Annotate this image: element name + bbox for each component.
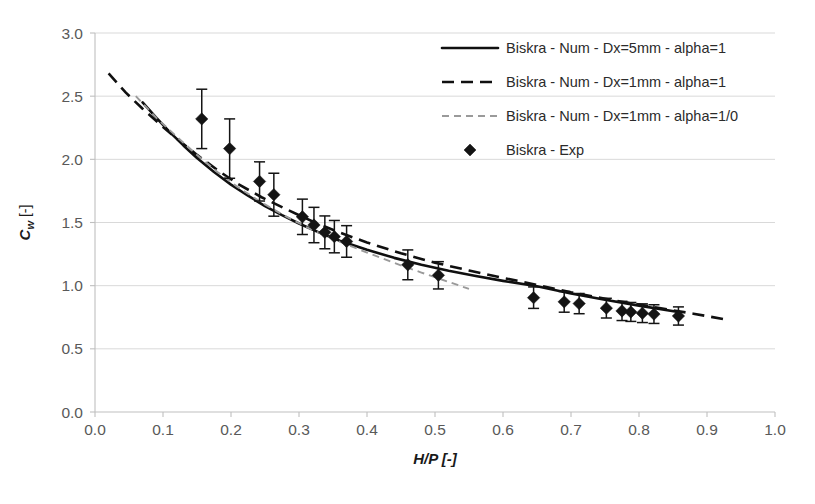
data-point-marker	[296, 211, 308, 223]
data-point-marker	[253, 175, 265, 187]
x-tick-label: 1.0	[764, 421, 786, 438]
y-axis-title: Cw [-]	[16, 205, 36, 241]
chart-canvas: 0.00.10.20.30.40.50.60.70.80.91.0 0.00.5…	[0, 0, 815, 504]
data-point-marker	[223, 142, 235, 154]
legend-entry-4[interactable]: Biskra - Exp	[464, 142, 584, 158]
axes-group	[90, 33, 775, 417]
data-point-marker	[625, 306, 637, 318]
legend-entry-1[interactable]: Biskra - Num - Dx=5mm - alpha=1	[442, 40, 726, 56]
legend-marker-icon	[464, 144, 476, 156]
svg-text:Cw [-]: Cw [-]	[16, 205, 36, 241]
y-tick-label: 2.5	[61, 88, 83, 105]
x-tick-label: 0.7	[560, 421, 582, 438]
x-axis-title: H/P [-]	[413, 450, 458, 467]
series-line-1	[143, 102, 680, 312]
data-point-marker	[527, 291, 539, 303]
legend-label: Biskra - Num - Dx=1mm - alpha=1/0	[506, 108, 738, 124]
x-tick-label: 0.0	[84, 421, 106, 438]
markers-group	[196, 113, 685, 322]
series-line-3	[136, 96, 469, 289]
y-tick-label: 3.0	[61, 25, 83, 42]
legend-label: Biskra - Num - Dx=5mm - alpha=1	[506, 40, 726, 56]
legend-group: Biskra - Num - Dx=5mm - alpha=1Biskra - …	[442, 40, 738, 158]
data-point-marker	[268, 189, 280, 201]
y-tick-label: 0.5	[61, 340, 83, 357]
x-tick-label: 0.2	[220, 421, 242, 438]
x-tick-label: 0.8	[628, 421, 650, 438]
x-tick-label: 0.6	[492, 421, 514, 438]
y-tick-label: 1.5	[61, 214, 83, 231]
x-tick-label: 0.1	[152, 421, 174, 438]
x-tick-label: 0.4	[356, 421, 378, 438]
legend-label: Biskra - Exp	[506, 142, 584, 158]
legend-label: Biskra - Num - Dx=1mm - alpha=1	[506, 74, 726, 90]
legend-entry-3[interactable]: Biskra - Num - Dx=1mm - alpha=1/0	[442, 108, 738, 124]
data-point-marker	[600, 302, 612, 314]
legend-entry-2[interactable]: Biskra - Num - Dx=1mm - alpha=1	[442, 74, 726, 90]
y-tick-labels: 0.00.51.01.52.02.53.0	[61, 25, 83, 421]
y-tick-label: 0.0	[61, 404, 83, 421]
x-tick-label: 0.5	[424, 421, 446, 438]
y-tick-label: 1.0	[61, 277, 83, 294]
x-tick-label: 0.9	[696, 421, 718, 438]
x-tick-labels: 0.00.10.20.30.40.50.60.70.80.91.0	[84, 421, 786, 438]
chart-figure: 0.00.10.20.30.40.50.60.70.80.91.0 0.00.5…	[0, 0, 815, 504]
data-point-marker	[573, 297, 585, 309]
x-tick-label: 0.3	[288, 421, 310, 438]
data-point-marker	[636, 307, 648, 319]
data-point-marker	[196, 113, 208, 125]
y-tick-label: 2.0	[61, 151, 83, 168]
data-point-marker	[558, 296, 570, 308]
